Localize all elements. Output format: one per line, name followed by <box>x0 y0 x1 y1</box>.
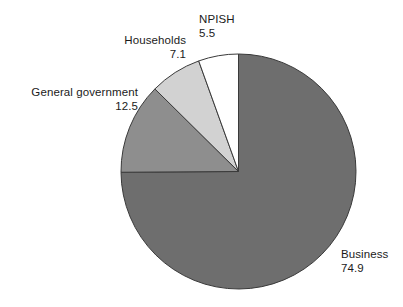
pie-label-npish-value: 5.5 <box>199 26 235 40</box>
pie-label-business: Business 74.9 <box>341 247 388 275</box>
pie-label-general-government-name: General government <box>8 85 138 99</box>
pie-label-general-government: General government 12.5 <box>8 85 138 113</box>
pie-label-households-name: Households <box>76 33 186 47</box>
pie-label-households-value: 7.1 <box>76 47 186 61</box>
pie-label-business-value: 74.9 <box>341 261 388 275</box>
pie-chart: NPISH 5.5 Households 7.1 General governm… <box>0 0 403 307</box>
pie-label-npish: NPISH 5.5 <box>199 12 235 40</box>
pie-label-general-government-value: 12.5 <box>8 99 138 113</box>
pie-label-business-name: Business <box>341 247 388 261</box>
pie-label-households: Households 7.1 <box>76 33 186 61</box>
pie-label-npish-name: NPISH <box>199 12 235 26</box>
